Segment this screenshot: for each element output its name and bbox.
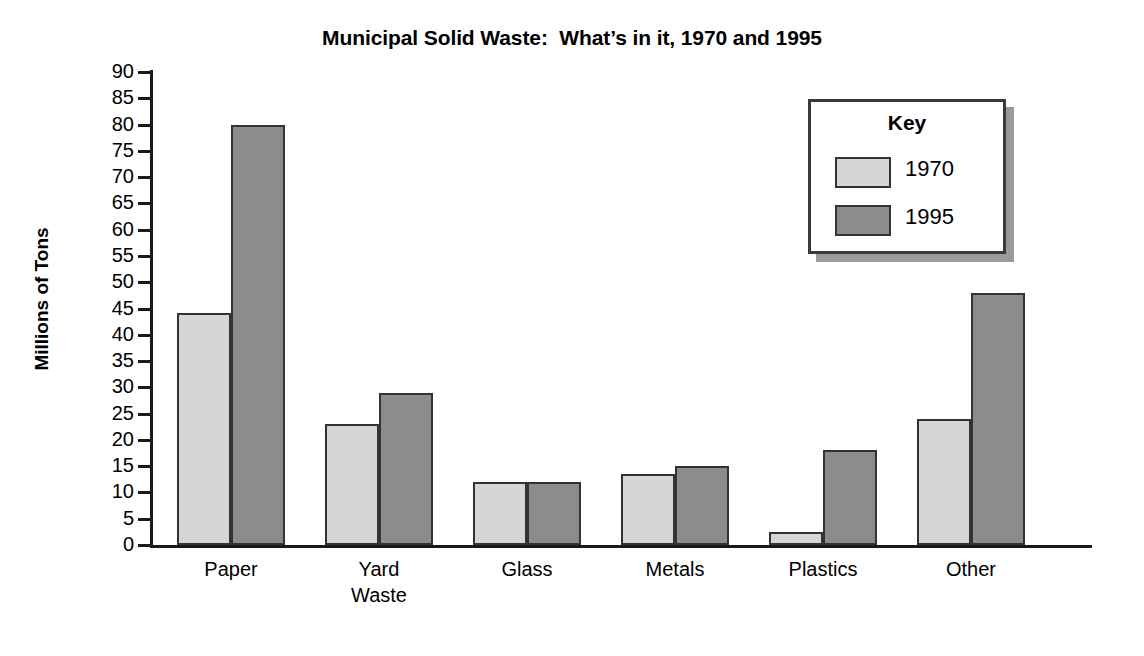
y-axis-tick-label: 85 <box>88 87 134 107</box>
x-axis-line <box>150 545 1092 548</box>
legend-item-1970: 1970 <box>835 154 1005 192</box>
legend: Key 19701995 <box>808 99 1006 254</box>
y-axis-tick-label: 75 <box>88 140 134 160</box>
y-axis-tick-label: 5 <box>88 508 134 528</box>
bar-glass-1970 <box>473 482 527 545</box>
y-axis-tick-label: 60 <box>88 219 134 239</box>
x-axis-label: Yard Waste <box>305 556 453 608</box>
bar-glass-1995 <box>527 482 581 545</box>
y-axis-tick-label: 40 <box>88 324 134 344</box>
legend-title: Key <box>811 111 1003 135</box>
x-axis-label: Plastics <box>749 556 897 582</box>
y-axis-title: Millions of Tons <box>31 169 53 429</box>
legend-item-1995: 1995 <box>835 202 1005 240</box>
legend-label-1970: 1970 <box>905 156 954 182</box>
x-axis-label: Other <box>897 556 1045 582</box>
y-axis-tick-label: 10 <box>88 481 134 501</box>
y-axis: 051015202530354045505560657075808590 <box>86 0 152 656</box>
x-axis-label: Metals <box>601 556 749 582</box>
bar-yard-waste-1995 <box>379 393 433 545</box>
bar-metals-1995 <box>675 466 729 545</box>
legend-swatch-1995 <box>835 205 891 236</box>
y-axis-tick-label: 25 <box>88 403 134 423</box>
bar-plastics-1970 <box>769 532 823 545</box>
bar-plastics-1995 <box>823 450 877 545</box>
y-axis-tick-label: 30 <box>88 376 134 396</box>
chart-title: Municipal Solid Waste: What’s in it, 197… <box>0 26 1144 50</box>
bar-chart: Municipal Solid Waste: What’s in it, 197… <box>0 0 1144 656</box>
bar-other-1970 <box>917 419 971 545</box>
bar-metals-1970 <box>621 474 675 545</box>
bar-yard-waste-1970 <box>325 424 379 545</box>
y-axis-tick-label: 70 <box>88 166 134 186</box>
bar-paper-1970 <box>177 313 231 545</box>
legend-label-1995: 1995 <box>905 204 954 230</box>
y-axis-tick-label: 35 <box>88 350 134 370</box>
y-axis-tick-label: 20 <box>88 429 134 449</box>
y-axis-tick-label: 80 <box>88 114 134 134</box>
y-axis-tick-label: 50 <box>88 271 134 291</box>
y-axis-tick-label: 0 <box>88 534 134 554</box>
legend-swatch-1970 <box>835 157 891 188</box>
y-axis-tick-label: 45 <box>88 298 134 318</box>
y-axis-tick-label: 15 <box>88 455 134 475</box>
x-axis-label: Paper <box>157 556 305 582</box>
bar-other-1995 <box>971 293 1025 545</box>
x-axis-label: Glass <box>453 556 601 582</box>
y-axis-tick-label: 55 <box>88 245 134 265</box>
bar-paper-1995 <box>231 125 285 545</box>
y-axis-tick-label: 90 <box>88 61 134 81</box>
y-axis-tick-label: 65 <box>88 192 134 212</box>
